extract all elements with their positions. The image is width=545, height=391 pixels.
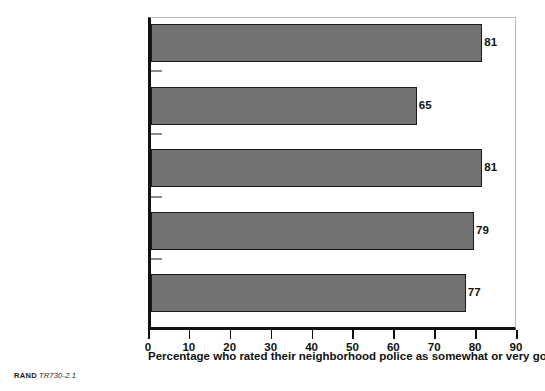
bar [151, 274, 466, 312]
x-axis-tick [516, 330, 518, 339]
x-axis-tick [230, 330, 232, 339]
x-axis-tick [271, 330, 273, 339]
bar-row [151, 274, 519, 312]
figure-container: 81Crime-fighting skills65Prompt response… [0, 0, 545, 391]
y-axis-tick [151, 258, 162, 260]
bar-value-label: 77 [468, 286, 481, 298]
bar-row [151, 149, 519, 187]
x-axis-tick [312, 330, 314, 339]
y-axis-tick [151, 133, 162, 135]
x-axis-tick [189, 330, 191, 339]
plot-inner [151, 18, 515, 327]
bar [151, 149, 482, 187]
bar [151, 24, 482, 62]
figure-credit: RAND TR730-2.1 [14, 371, 76, 380]
bar-value-label: 65 [419, 99, 432, 111]
credit-brand: RAND [14, 371, 37, 380]
bar-row [151, 87, 519, 125]
bar-row [151, 212, 519, 250]
bar-value-label: 81 [484, 36, 497, 48]
bar [151, 212, 474, 250]
x-axis-title: Percentage who rated their neighborhood … [148, 350, 538, 362]
y-axis-tick [151, 196, 162, 198]
x-axis-tick [352, 330, 354, 339]
bar-value-label: 81 [484, 161, 497, 173]
x-axis-tick [393, 330, 395, 339]
bar-value-label: 79 [476, 224, 489, 236]
credit-figure-id: TR730-2.1 [39, 371, 76, 380]
bar [151, 87, 417, 125]
y-axis-tick [151, 70, 162, 72]
x-axis-tick [148, 330, 150, 339]
x-axis-tick [434, 330, 436, 339]
x-axis-tick [475, 330, 477, 339]
plot-area [148, 17, 516, 330]
bar-row [151, 24, 519, 62]
